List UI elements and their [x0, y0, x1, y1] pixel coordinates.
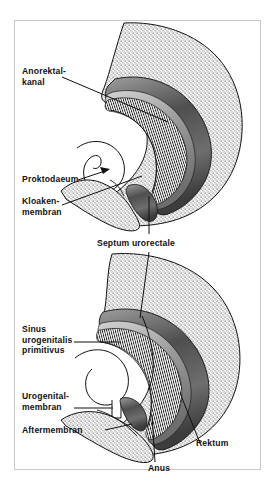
lower-stage-drawing [61, 252, 240, 463]
label-sinus-line1: Sinus [22, 324, 46, 334]
label-urogenitalmembran-line1: Urogenital- [22, 391, 69, 401]
embryology-figure: Anorektal-kanal Proktodaeum Kloaken-memb… [0, 0, 275, 486]
label-kloakenmembran-line2: membran [22, 207, 62, 217]
label-anorektalkanal-line1: Anorektal- [22, 66, 66, 76]
label-sinus-urogenitalis-primitivus: Sinusurogenitalisprimitivus [22, 324, 73, 356]
lower-urogenital-sinus-cavity [75, 350, 128, 405]
label-rektum: Rektum [196, 438, 228, 449]
label-aftermembran: Aftermembran [22, 425, 83, 436]
label-urogenitalmembran-line2: membran [22, 402, 62, 412]
label-urogenitalmembran: Urogenital-membran [22, 391, 69, 412]
label-kloakenmembran: Kloaken-membran [22, 196, 62, 217]
label-sinus-line3: primitivus [22, 345, 65, 355]
upper-stage-drawing [61, 23, 242, 234]
label-anorektalkanal-line2: kanal [22, 77, 45, 87]
label-anus: Anus [148, 463, 170, 474]
label-anorektalkanal: Anorektal-kanal [22, 66, 66, 87]
label-kloakenmembran-line1: Kloaken- [22, 196, 60, 206]
label-proktodaeum: Proktodaeum [22, 174, 79, 185]
label-septum-urorectale: Septum urorectale [97, 238, 175, 249]
label-sinus-line2: urogenitalis [22, 335, 73, 345]
